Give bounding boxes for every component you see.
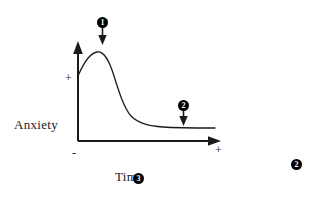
annotation-marker-time-label: 3 [133,173,144,184]
y-axis-arrowhead [73,41,83,54]
anxiety-curve [78,52,215,128]
x-axis [78,136,221,146]
annotation-marker-standalone: 2 [291,159,302,170]
annotation-marker-plateau: 2 [178,100,189,111]
marker-tail-arrow [179,111,187,126]
anxiety-time-chart [0,0,325,202]
y-axis-title: Anxiety [14,117,58,133]
x-axis-minus-sign: - [72,146,76,159]
annotation-marker-peak: 1 [97,17,108,28]
y-axis [73,41,83,141]
y-axis-plus-sign: + [65,72,72,84]
figure-canvas: Anxiety Time + - + 1 2 3 2 [0,0,325,202]
x-axis-plus-sign: + [215,144,222,156]
marker-peak-arrow [98,28,106,45]
